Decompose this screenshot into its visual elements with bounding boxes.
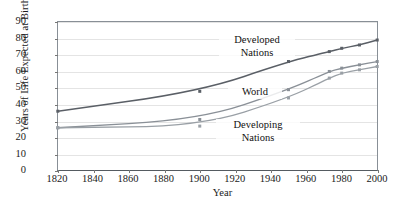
data-point-marker [287,88,290,91]
data-point-marker [358,63,361,66]
data-point-marker [328,70,331,73]
annotation-developing: Developing Nations [216,119,300,144]
data-point-marker [198,90,201,93]
annotation-world: World [228,86,282,99]
data-point-marker [328,77,331,80]
annotation-developing-line1: Developing [234,119,283,130]
data-point-marker [376,60,379,63]
annotation-developed-line2: Nations [241,47,274,58]
data-point-marker [198,118,201,121]
data-point-marker [198,125,201,128]
data-point-marker [358,43,361,46]
data-point-marker [287,96,290,99]
data-point-marker [376,65,379,68]
annotation-developed: Developed Nations [219,34,295,59]
series-overlay [0,0,407,208]
data-point-marker [340,47,343,50]
data-point-marker [328,50,331,53]
data-point-marker [358,68,361,71]
data-point-marker [340,72,343,75]
annotation-world-text: World [242,86,268,97]
data-point-marker [287,60,290,63]
annotation-developing-line2: Nations [242,132,275,143]
annotation-developed-line1: Developed [234,34,279,45]
chart-figure: Years of Life Expected at Birth 90 80 [0,0,407,208]
data-point-marker [56,110,59,113]
data-point-marker [56,126,59,129]
data-point-marker [376,39,379,42]
data-point-marker [340,67,343,70]
